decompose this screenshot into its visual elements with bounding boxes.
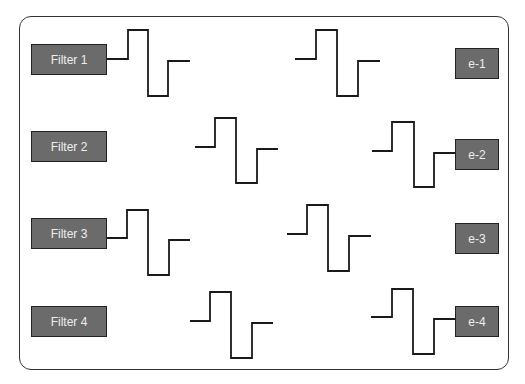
filter-4-label: Filter 4: [51, 315, 88, 329]
filter-2-label: Filter 2: [51, 140, 88, 154]
output-e3-label: e-3: [468, 232, 485, 246]
output-e2-box: e-2: [455, 139, 499, 170]
output-e4-box: e-4: [455, 306, 499, 337]
pulse-waveform: [287, 205, 371, 271]
filter-1-box: Filter 1: [31, 44, 107, 75]
pulse-waveform: [371, 289, 455, 354]
filter-1-label: Filter 1: [51, 53, 88, 67]
output-e2-label: e-2: [468, 148, 485, 162]
pulse-waveform: [107, 210, 190, 275]
filter-3-box: Filter 3: [31, 218, 107, 249]
pulse-waveform: [372, 122, 455, 187]
pulse-waveform: [295, 30, 380, 96]
pulse-waveform: [107, 30, 190, 96]
output-e3-box: e-3: [455, 223, 499, 254]
filter-4-box: Filter 4: [31, 306, 107, 337]
filter-3-label: Filter 3: [51, 227, 88, 241]
output-e1-label: e-1: [468, 57, 485, 71]
output-e1-box: e-1: [455, 48, 499, 79]
pulse-waveform: [190, 292, 273, 358]
filter-2-box: Filter 2: [31, 131, 107, 162]
output-e4-label: e-4: [468, 315, 485, 329]
pulse-waveform: [195, 118, 278, 183]
